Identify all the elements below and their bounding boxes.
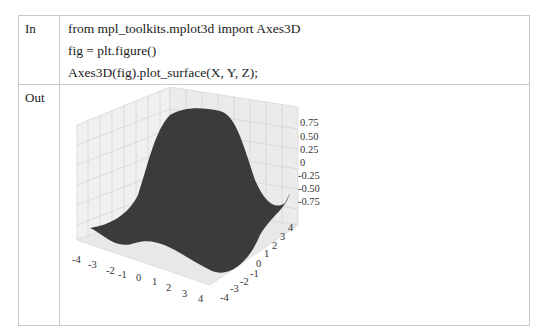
code-line: fig = plt.figure() [68,40,529,62]
x-tick: -1 [118,269,127,280]
in-label: In [19,16,60,85]
x-tick: -3 [88,259,97,270]
output-area: 0.75 0.50 0.25 0 -0.25 -0.50 -0.75 -4 -3… [60,85,530,326]
code-line: Axes3D(fig).plot_surface(X, Y, Z); [68,62,529,84]
x-tick: -4 [72,254,81,265]
y-tick: 4 [288,222,294,233]
notebook-cell: In from mpl_toolkits.mplot3d import Axes… [18,15,530,326]
z-tick: 0 [300,157,305,168]
x-tick: 4 [198,293,204,304]
y-tick: -2 [240,276,249,287]
y-tick: 1 [264,248,269,259]
y-tick: -4 [220,292,229,303]
y-tick: 0 [256,258,261,269]
y-tick: 3 [280,231,285,242]
y-tick: -3 [230,283,239,294]
z-tick: -0.25 [298,170,320,181]
z-tick: 0.25 [300,144,318,155]
z-tick: -0.75 [298,196,320,207]
x-tick: 0 [136,272,141,283]
x-tick: 2 [166,282,171,293]
x-tick: -2 [106,265,115,276]
z-tick: 0.50 [300,131,318,142]
out-label: Out [19,85,60,326]
z-tick: 0.75 [300,117,318,128]
z-tick: -0.50 [298,183,320,194]
x-tick: 3 [182,288,187,299]
plot-svg: 0.75 0.50 0.25 0 -0.25 -0.50 -0.75 -4 -3… [60,85,360,327]
code-line: from mpl_toolkits.mplot3d import Axes3D [68,18,529,40]
surface-plot: 0.75 0.50 0.25 0 -0.25 -0.50 -0.75 -4 -3… [60,85,360,325]
code-block: from mpl_toolkits.mplot3d import Axes3D … [60,16,530,85]
y-tick: 2 [272,240,277,251]
x-tick: 1 [152,276,157,287]
y-tick: -1 [250,268,259,279]
